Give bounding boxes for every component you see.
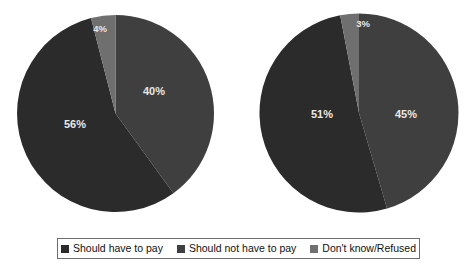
legend-item-should-not-have-to-pay[interactable]: Should not have to pay <box>177 243 296 254</box>
chart-legend: Should have to pay Should not have to pa… <box>57 238 420 259</box>
pie-left-label-dont-know: 4% <box>93 23 107 34</box>
pie-chart-left: 40% 56% 4% <box>16 14 215 213</box>
pie-left-label-should-not-pay: 40% <box>143 85 165 97</box>
pie-right-label-dont-know: 3% <box>356 18 370 29</box>
legend-swatch-dont-know-refused <box>310 245 318 253</box>
pie-right-label-should-pay: 51% <box>311 108 333 120</box>
legend-label-should-have-to-pay: Should have to pay <box>73 243 163 254</box>
legend-item-dont-know-refused[interactable]: Don't know/Refused <box>310 243 416 254</box>
pie-chart-left-svg: 40% 56% 4% <box>16 14 215 213</box>
legend-swatch-should-not-have-to-pay <box>177 245 185 253</box>
pie-right-label-should-not-pay: 45% <box>395 108 417 120</box>
legend-label-dont-know-refused: Don't know/Refused <box>322 243 416 254</box>
legend-label-should-not-have-to-pay: Should not have to pay <box>189 243 296 254</box>
legend-swatch-should-have-to-pay <box>61 245 69 253</box>
pie-chart-right: 45% 51% 3% <box>259 13 460 214</box>
pie-left-label-should-pay: 56% <box>64 118 86 130</box>
pie-chart-figure: 40% 56% 4% 45% 51% 3% Should have to pay… <box>0 0 475 268</box>
pie-left-slices <box>17 15 214 212</box>
legend-item-should-have-to-pay[interactable]: Should have to pay <box>61 243 163 254</box>
pie-chart-right-svg: 45% 51% 3% <box>259 13 460 214</box>
pie-right-slices <box>259 14 458 213</box>
